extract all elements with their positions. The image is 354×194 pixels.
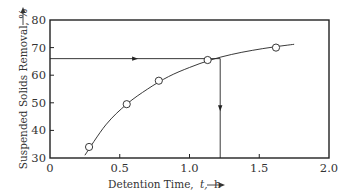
arrow-down-icon — [218, 105, 222, 111]
data-point-marker — [155, 77, 162, 84]
y-tick-label: 30 — [31, 151, 46, 165]
x-tick-label: 2.0 — [320, 161, 338, 175]
plot-frame — [50, 20, 329, 158]
fitted-curve — [85, 44, 294, 155]
y-tick-label: 80 — [31, 13, 46, 27]
y-tick-label: 60 — [31, 68, 46, 82]
y-tick-label: 50 — [31, 96, 46, 110]
x-tick-label: 1.5 — [250, 161, 268, 175]
y-axis-title: Suspended Solids Removal, % — [17, 9, 29, 169]
x-tick-label: 0.5 — [111, 161, 129, 175]
data-point-marker — [272, 44, 279, 51]
chart: 304050607080 00.51.01.52.0 Suspended Sol… — [0, 0, 354, 194]
data-points — [85, 44, 279, 151]
arrow-right-icon — [132, 56, 138, 60]
x-axis-title: Detention Time, t, h — [108, 178, 221, 190]
x-axis-title-var: t, — [200, 178, 208, 190]
annotation-lines — [50, 56, 222, 158]
x-tick-label: 0 — [46, 161, 53, 175]
y-tick-label: 70 — [31, 41, 46, 55]
x-axis-ticks: 00.51.01.52.0 — [46, 154, 338, 175]
plot-border — [50, 20, 329, 158]
y-tick-label: 40 — [31, 123, 46, 137]
x-axis-title-text: Detention Time, — [108, 178, 194, 190]
x-tick-label: 1.0 — [180, 161, 198, 175]
data-point-marker — [85, 143, 92, 150]
data-point-marker — [123, 101, 130, 108]
fitted-curve-path — [85, 44, 294, 155]
data-point-marker — [204, 56, 211, 63]
